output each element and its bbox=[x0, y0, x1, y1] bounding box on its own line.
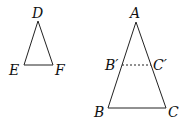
label-c: C bbox=[168, 104, 179, 120]
label-c-prime: C′ bbox=[153, 57, 168, 73]
triangle-def bbox=[24, 21, 53, 65]
label-d: D bbox=[31, 5, 43, 21]
similar-triangles-diagram: D E F A B′ C′ B C bbox=[0, 0, 184, 125]
label-a: A bbox=[128, 5, 140, 21]
label-b-prime: B′ bbox=[104, 57, 119, 73]
label-f: F bbox=[54, 62, 66, 78]
label-e: E bbox=[8, 62, 19, 78]
label-b: B bbox=[93, 104, 104, 120]
